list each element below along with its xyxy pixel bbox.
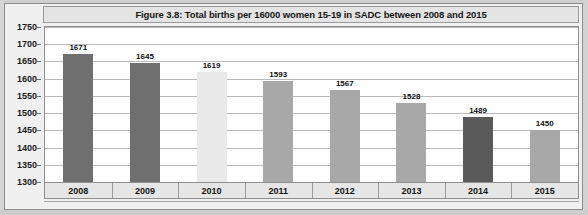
x-axis-category-label: 2008	[45, 183, 112, 198]
y-axis: 1750170016501600155015001450140013501300	[5, 26, 41, 183]
bar[interactable]	[530, 130, 560, 182]
bar-slot: 1593	[245, 27, 312, 182]
y-axis-tick-label: 1750	[17, 22, 37, 32]
x-axis-category-label: 2015	[511, 183, 578, 198]
bar-value-label: 1489	[469, 106, 487, 115]
bar-slot: 1671	[45, 27, 112, 182]
y-axis-tick-mark	[37, 44, 41, 45]
x-axis: 20082009201020112012201320142015	[44, 183, 579, 199]
x-axis-separator	[445, 183, 446, 198]
page-edge-bottom	[0, 210, 588, 215]
x-axis-category-label: 2014	[445, 183, 512, 198]
bar-value-label: 1619	[203, 61, 221, 70]
bar-slot: 1619	[178, 27, 245, 182]
bar-value-label: 1671	[69, 43, 87, 52]
x-axis-separator	[178, 183, 179, 198]
y-axis-tick-label: 1450	[17, 125, 37, 135]
bar[interactable]	[130, 63, 160, 182]
y-axis-tick-label: 1500	[17, 108, 37, 118]
bar[interactable]	[63, 54, 93, 182]
y-axis-tick-mark	[37, 148, 41, 149]
y-axis-tick-mark	[37, 79, 41, 80]
bar-value-label: 1450	[536, 119, 554, 128]
y-axis-tick-mark	[37, 130, 41, 131]
x-axis-category-label: 2012	[312, 183, 379, 198]
y-axis-tick-label: 1650	[17, 56, 37, 66]
y-axis-tick-label: 1600	[17, 74, 37, 84]
x-axis-separator	[112, 183, 113, 198]
y-axis-tick-mark	[37, 61, 41, 62]
x-axis-category-label: 2010	[178, 183, 245, 198]
x-axis-category-label: 2011	[245, 183, 312, 198]
bar-slot: 1567	[312, 27, 379, 182]
y-axis-tick-label: 1350	[17, 160, 37, 170]
y-axis-tick-mark	[37, 113, 41, 114]
y-axis-tick-label: 1300	[17, 177, 37, 187]
y-axis-tick-label: 1700	[17, 39, 37, 49]
bar[interactable]	[396, 103, 426, 182]
bar-slot: 1528	[378, 27, 445, 182]
bar-value-label: 1528	[403, 92, 421, 101]
plot-area: 16711645161915931567152814891450	[44, 26, 579, 183]
bar[interactable]	[197, 72, 227, 182]
x-axis-separator	[378, 183, 379, 198]
bar[interactable]	[330, 90, 360, 182]
x-axis-category-label: 2013	[378, 183, 445, 198]
scanned-page: Figure 3.8: Total births per 16000 women…	[0, 0, 588, 215]
bar-slot: 1489	[445, 27, 512, 182]
y-axis-tick-label: 1400	[17, 143, 37, 153]
y-axis-tick-mark	[37, 96, 41, 97]
y-axis-tick-label: 1550	[17, 91, 37, 101]
chart-frame: Figure 3.8: Total births per 16000 women…	[4, 3, 583, 210]
bar[interactable]	[263, 81, 293, 182]
bar-value-label: 1645	[136, 52, 154, 61]
y-axis-tick-mark	[37, 165, 41, 166]
x-axis-separator	[245, 183, 246, 198]
bar-value-label: 1567	[336, 79, 354, 88]
x-axis-separator	[511, 183, 512, 198]
chart-title: Figure 3.8: Total births per 16000 women…	[135, 9, 486, 20]
bars-layer: 16711645161915931567152814891450	[45, 27, 578, 182]
bar-slot: 1645	[112, 27, 179, 182]
bar-value-label: 1593	[269, 70, 287, 79]
y-axis-tick-mark	[37, 182, 41, 183]
chart-title-band: Figure 3.8: Total births per 16000 women…	[43, 6, 579, 23]
bottom-rule	[44, 201, 579, 202]
bar[interactable]	[463, 117, 493, 182]
x-axis-category-label: 2009	[112, 183, 179, 198]
y-axis-tick-mark	[37, 27, 41, 28]
bar-slot: 1450	[511, 27, 578, 182]
x-axis-separator	[312, 183, 313, 198]
page-edge-right	[583, 0, 588, 215]
